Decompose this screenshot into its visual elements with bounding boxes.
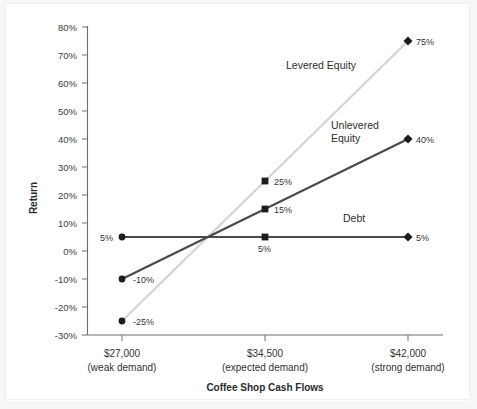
debt-point-weak (119, 234, 126, 241)
debt-label-expected: 5% (258, 244, 271, 254)
unlevered-equity-label-expected: 15% (274, 205, 292, 215)
y-tick-label-10: 10% (58, 218, 78, 229)
x-tick-label-3: $42,000 (390, 348, 427, 359)
y-tick-label-50: 50% (58, 106, 78, 117)
y-tick-label-70: 70% (58, 50, 78, 61)
x-tick-sublabel-1: (weak demand) (88, 362, 157, 373)
unlevered-equity-label-weak: -10% (133, 275, 154, 285)
unlevered-equity-point-expected (262, 206, 269, 213)
x-axis-ticks (122, 335, 408, 341)
y-tick-label-60: 60% (58, 78, 78, 89)
unlevered-equity-series-label-line2: Equity (331, 132, 361, 144)
y-axis-ticks (82, 27, 88, 335)
return-vs-cash-flow-chart: 80% 70% 60% 50% 40% 30% 20% 10% 0% -10% … (0, 0, 477, 409)
x-tick-sublabel-2: (expected demand) (222, 362, 308, 373)
debt-point-expected (262, 234, 269, 241)
levered-equity-series-label: Levered Equity (286, 59, 357, 71)
y-axis-title: Return (28, 182, 39, 214)
unlevered-equity-series-label-line1: Unlevered (331, 119, 379, 131)
debt-label-weak: 5% (100, 233, 113, 243)
debt-series-label: Debt (343, 212, 365, 224)
debt-point-strong (403, 233, 412, 242)
levered-equity-point-expected (262, 178, 269, 185)
x-tick-label-2: $34,500 (247, 348, 284, 359)
y-tick-label-neg10: -10% (55, 274, 78, 285)
levered-equity-point-weak (119, 318, 126, 325)
y-tick-label-30: 30% (58, 162, 78, 173)
x-axis-title: Coffee Shop Cash Flows (206, 382, 324, 393)
levered-equity-label-expected: 25% (274, 177, 292, 187)
y-tick-label-20: 20% (58, 190, 78, 201)
y-tick-label-neg30: -30% (55, 330, 78, 341)
y-tick-label-80: 80% (58, 22, 78, 33)
chart-page: 80% 70% 60% 50% 40% 30% 20% 10% 0% -10% … (0, 0, 477, 409)
y-tick-label-0: 0% (63, 246, 77, 257)
unlevered-equity-point-strong (403, 135, 412, 144)
x-tick-sublabel-3: (strong demand) (371, 362, 444, 373)
debt-label-strong: 5% (416, 233, 429, 243)
levered-equity-label-weak: -25% (133, 317, 154, 327)
y-tick-label-neg20: -20% (55, 302, 78, 313)
unlevered-equity-label-strong: 40% (416, 135, 434, 145)
unlevered-equity-point-weak (119, 276, 126, 283)
y-tick-label-40: 40% (58, 134, 78, 145)
x-tick-label-1: $27,000 (104, 348, 141, 359)
levered-equity-label-strong: 75% (416, 37, 434, 47)
